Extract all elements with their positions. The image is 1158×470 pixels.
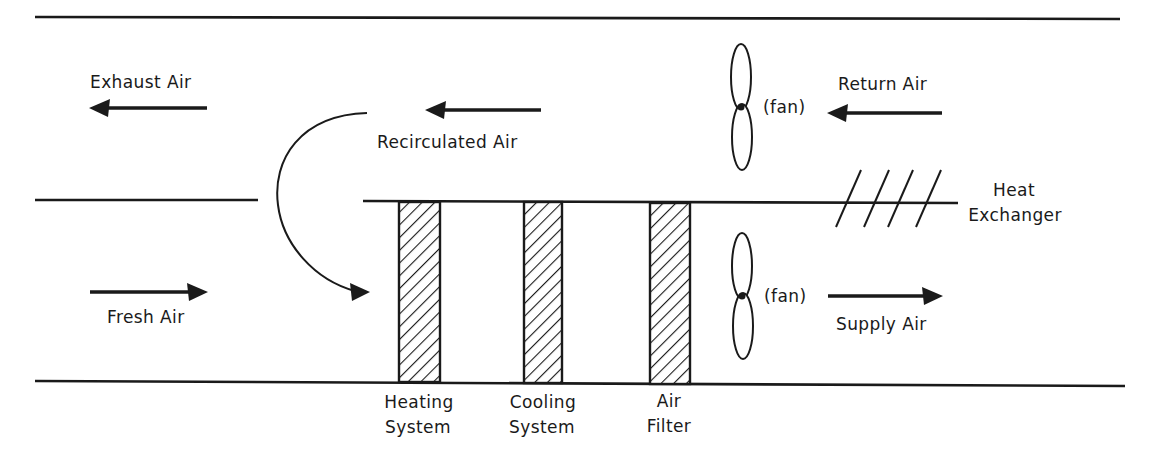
return-air-arrow-icon xyxy=(827,104,942,122)
heat-exchanger-label-line1: Heat xyxy=(993,180,1035,200)
heating-system-label-line1: Heating xyxy=(384,392,453,412)
return-fan-icon xyxy=(731,44,752,170)
recirculated-air-arrow-icon xyxy=(425,101,541,119)
heating-system-label-line2: System xyxy=(385,417,451,437)
return-air-label: Return Air xyxy=(838,74,927,94)
heat-exchanger-label-line2: Exchanger xyxy=(968,205,1062,225)
return-fan-label: (fan) xyxy=(763,97,805,117)
supply-fan-label: (fan) xyxy=(764,286,806,306)
hvac-diagram: Exhaust Air Recirculated Air Return Air … xyxy=(0,0,1158,470)
exhaust-air-label: Exhaust Air xyxy=(90,72,191,92)
cooling-system-label-line1: Cooling xyxy=(510,392,576,412)
supply-air-arrow-icon xyxy=(828,287,943,305)
duct-bottom-wall xyxy=(35,381,1125,386)
exhaust-air-arrow-icon xyxy=(89,99,207,117)
heating-system-bar xyxy=(399,202,440,382)
cooling-system-bar xyxy=(524,202,562,383)
supply-fan-icon xyxy=(732,233,753,359)
fresh-air-label: Fresh Air xyxy=(107,307,185,327)
cooling-system-label-line2: System xyxy=(509,417,575,437)
recirculated-air-label: Recirculated Air xyxy=(377,132,518,152)
air-filter-bar xyxy=(650,203,690,384)
duct-top-wall xyxy=(35,17,1120,19)
fresh-air-arrow-icon xyxy=(90,283,208,301)
heat-exchanger-icon xyxy=(836,170,941,227)
supply-air-label: Supply Air xyxy=(836,314,927,334)
air-filter-label-line1: Air xyxy=(657,391,682,411)
air-filter-label-line2: Filter xyxy=(647,416,692,436)
recirculation-curve-arrow-icon xyxy=(277,113,370,301)
